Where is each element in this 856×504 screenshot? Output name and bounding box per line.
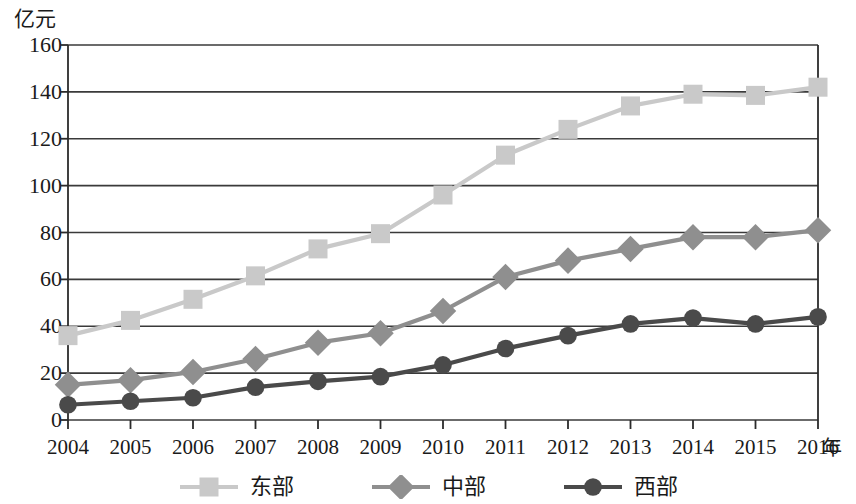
data-point-diamond [55,372,82,399]
data-point-circle [184,389,202,407]
data-point-circle [309,372,327,390]
circle-marker [562,475,624,499]
data-point-square [184,290,203,309]
legend-item-1[interactable]: 东部 [178,475,294,499]
legend-label: 西部 [634,476,678,498]
data-point-diamond [242,346,269,373]
square-marker [178,475,240,499]
data-point-circle [497,340,515,358]
data-point-square [371,224,390,243]
data-point-square [309,239,328,258]
data-point-circle [247,378,265,396]
y-axis-ticks [61,45,68,420]
data-point-diamond [805,217,832,244]
data-point-circle [622,315,640,333]
data-point-diamond [492,264,519,291]
data-point-square [496,146,515,165]
data-point-diamond [367,320,394,347]
legend-label: 中部 [442,476,486,498]
data-point-diamond [555,247,582,274]
data-point-diamond [742,224,769,251]
data-point-diamond [305,329,332,356]
data-point-square [59,326,78,345]
chart-legend: 东部中部西部 [0,470,856,504]
data-point-square [121,311,140,330]
data-point-square [200,478,219,497]
diamond-marker [370,475,432,499]
line-chart: 亿元 年 020406080100120140160 2004200520062… [0,0,856,504]
data-point-circle [559,327,577,345]
data-point-diamond [180,359,207,386]
legend-label: 东部 [250,476,294,498]
plot-area [0,0,856,504]
data-point-square [746,86,765,105]
data-point-circle [809,308,827,326]
data-point-circle [122,392,140,410]
data-point-diamond [117,367,144,394]
data-point-diamond [430,298,457,325]
data-point-square [246,266,265,285]
data-point-square [621,96,640,115]
legend-item-2[interactable]: 中部 [370,475,486,499]
data-point-circle [684,309,702,327]
data-point-circle [372,368,390,386]
data-point-circle [434,356,452,374]
data-point-square [434,186,453,205]
data-point-circle [584,478,602,496]
data-point-diamond [680,224,707,251]
legend-item-3[interactable]: 西部 [562,475,678,499]
data-point-diamond [388,475,415,499]
x-axis-ticks [68,420,818,429]
data-point-diamond [617,236,644,263]
data-point-circle [747,315,765,333]
data-point-square [684,85,703,104]
data-point-square [559,120,578,139]
data-point-circle [59,396,77,414]
data-point-square [809,78,828,97]
